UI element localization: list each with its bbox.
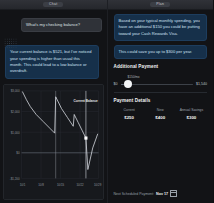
slider-track[interactable] xyxy=(121,84,194,86)
additional-payment-title: Additional Payment xyxy=(114,64,208,69)
chart-xtick-0: 10/1 xyxy=(20,183,26,187)
next-scheduled-payment-label: Next Scheduled Payment: xyxy=(114,192,154,196)
next-scheduled-payment: Next Scheduled Payment: Nov 17 xyxy=(114,190,208,197)
payment-detail-label: Annual Savings xyxy=(176,108,207,113)
section-divider xyxy=(114,92,208,93)
right-topbar: Plan xyxy=(108,0,214,10)
assistant-message-wrap: Your current balance is $521, but I've n… xyxy=(5,45,102,78)
payment-detail-annual-savings: Annual Savings $300 xyxy=(176,108,207,120)
left-conversation: What's my checking balance? Your current… xyxy=(0,10,107,90)
chart-ytick-4: -$1,200 xyxy=(10,177,20,181)
chart-ytick-2: $1,000 xyxy=(11,131,20,135)
user-message-bubble: What's my checking balance? xyxy=(21,18,102,32)
chart-xtick-2: 10/15 xyxy=(57,183,65,187)
payment-detail-value: $300 xyxy=(176,115,207,120)
slider-max-label: $1,540 xyxy=(196,82,207,86)
right-panel: Plan Based on your typical monthly spend… xyxy=(107,0,214,203)
payment-details-section: Payment Details Current $250 New $400 An… xyxy=(108,98,214,120)
balance-line-chart: Current Balance $3,000 $2,000 $1,000 $0 … xyxy=(4,85,103,199)
payment-detail-label: New xyxy=(145,108,176,113)
right-conversation: Based on your typical monthly spending, … xyxy=(108,10,214,59)
assistant-message-bubble: Your current balance is $521, but I've n… xyxy=(5,45,99,78)
calendar-icon[interactable] xyxy=(170,190,177,197)
payment-details-title: Payment Details xyxy=(114,98,208,103)
balance-chart-card: Current Balance $3,000 $2,000 $1,000 $0 … xyxy=(3,84,104,200)
left-panel: Chat What's my checking balance? Your cu… xyxy=(0,0,107,203)
chart-current-balance-marker xyxy=(84,136,87,139)
chart-ytick-1: $2,000 xyxy=(11,110,20,114)
chart-xtick-3: 10/22 xyxy=(76,183,84,187)
payment-details-grid: Current $250 New $400 Annual Savings $30… xyxy=(114,108,208,120)
slider-knob[interactable] xyxy=(124,80,132,88)
chart-ytick-0: $3,000 xyxy=(11,89,20,93)
payment-detail-label: Current xyxy=(114,108,145,113)
payment-detail-new: New $400 xyxy=(145,108,176,120)
assistant-message-bubble-primary: Based on your typical monthly spending, … xyxy=(114,14,208,41)
payment-detail-value: $250 xyxy=(114,115,145,120)
left-topbar-label: Chat xyxy=(43,2,63,7)
assistant-message-bubble-secondary: This could save you up to $300 per year. xyxy=(114,45,208,59)
dot-grid-decoration xyxy=(4,38,18,48)
payment-detail-value: $400 xyxy=(145,115,176,120)
next-scheduled-payment-date: Nov 17 xyxy=(156,192,168,196)
right-topbar-label: Plan xyxy=(150,2,170,7)
additional-payment-section: Additional Payment $150/mo $0 $1,540 xyxy=(108,64,214,86)
slider-value-tooltip: $150/mo xyxy=(128,75,140,79)
additional-payment-slider-block[interactable]: $150/mo $0 $1,540 xyxy=(114,75,208,86)
app-root: Chat What's my checking balance? Your cu… xyxy=(0,0,213,203)
slider-min-label: $0 xyxy=(114,82,118,86)
chart-xtick-4: 10/29 xyxy=(94,183,102,187)
chart-annotation-label: Current Balance xyxy=(74,99,98,103)
left-topbar: Chat xyxy=(0,0,107,10)
chart-ytick-3: $0 xyxy=(16,151,20,155)
payment-detail-current: Current $250 xyxy=(114,108,145,120)
chart-xtick-1: 10/8 xyxy=(38,183,44,187)
slider-row[interactable]: $0 $1,540 xyxy=(114,82,208,86)
